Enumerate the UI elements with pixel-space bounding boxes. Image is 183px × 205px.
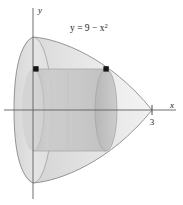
curve-equation-exponent: 2 [104, 22, 107, 29]
left-marker-point [33, 66, 38, 71]
curve-equation-main: y = 9 − x [70, 23, 105, 33]
curve-equation-label: y = 9 − x2 [70, 22, 108, 34]
y-axis-label: y [37, 5, 42, 15]
solid-of-revolution-figure: y x 3 y = 9 − x2 [0, 0, 183, 205]
right-marker-point [103, 66, 108, 71]
x-axis-label: x [169, 100, 174, 110]
figure-container: y x 3 y = 9 − x2 [0, 0, 183, 205]
x-axis-tick-label-3: 3 [150, 117, 155, 127]
